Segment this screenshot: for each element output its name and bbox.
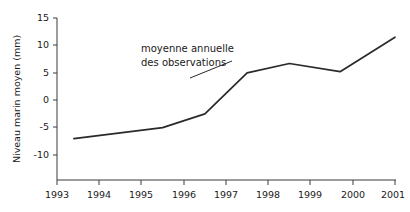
y-tick-label-4: -5	[40, 121, 49, 132]
x-tick-label-7: 2000	[341, 189, 365, 200]
y-tick-label-1: 10	[37, 39, 49, 50]
x-tick-labels: 1993 1994 1995 1996 1997 1998 1999 2000 …	[45, 189, 405, 200]
y-tick-labels: 15 10 5 0 -5 -10	[33, 12, 49, 160]
sea-level-chart: 15 10 5 0 -5 -10 Niveau marin moyen (mm)…	[0, 0, 410, 212]
x-tick-label-1: 1994	[87, 189, 111, 200]
x-tick-label-5: 1998	[256, 189, 280, 200]
y-tick-label-2: 5	[43, 67, 49, 78]
x-tick-label-8: 2001	[381, 189, 405, 200]
y-tick-label-5: -10	[33, 149, 49, 160]
x-tick-label-3: 1996	[172, 189, 196, 200]
annotation-line-2: des observations	[141, 57, 226, 68]
x-tick-label-6: 1999	[298, 189, 322, 200]
x-tick-label-4: 1997	[214, 189, 238, 200]
series-line-moyenne-annuelle	[74, 37, 395, 138]
x-tick-marks	[57, 180, 395, 185]
x-tick-label-0: 1993	[45, 189, 69, 200]
y-tick-label-0: 15	[37, 12, 49, 23]
annotation-line-1: moyenne annuelle	[141, 43, 234, 54]
y-tick-marks	[53, 18, 57, 155]
y-axis-title: Niveau marin moyen (mm)	[11, 35, 22, 163]
x-tick-label-2: 1995	[129, 189, 153, 200]
chart-canvas: 15 10 5 0 -5 -10 Niveau marin moyen (mm)…	[0, 0, 410, 212]
y-tick-label-3: 0	[43, 94, 49, 105]
